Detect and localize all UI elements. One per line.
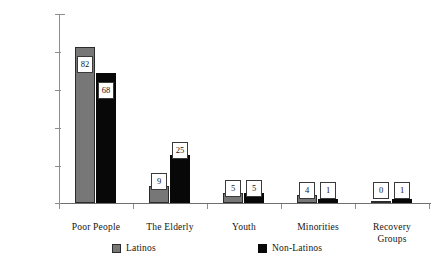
value-label: 82 xyxy=(77,56,93,73)
legend-label: Non-Latinos xyxy=(272,243,322,254)
bar-recovery-groups-nonlatinos xyxy=(392,199,412,203)
x-axis-category-label: The Elderly xyxy=(133,222,207,234)
y-axis-tick xyxy=(55,203,61,204)
legend-item-latinos: Latinos xyxy=(112,240,156,256)
bar-the-elderly-nonlatinos xyxy=(170,155,190,203)
value-label: 4 xyxy=(299,182,315,199)
y-axis-line xyxy=(59,14,60,204)
y-axis-tick xyxy=(55,52,61,53)
bar-minorities-nonlatinos xyxy=(318,199,338,203)
legend-swatch-icon xyxy=(258,244,267,253)
value-label: 1 xyxy=(320,182,336,199)
value-label: 0 xyxy=(373,182,389,199)
value-label: 5 xyxy=(246,180,262,197)
y-axis-tick xyxy=(55,128,61,129)
x-axis-category-label: Minorities xyxy=(281,222,355,234)
x-axis-tick xyxy=(59,204,60,209)
x-axis-category-label: Youth xyxy=(207,222,281,234)
bar-recovery-groups-latinos xyxy=(371,201,391,203)
x-axis-tick xyxy=(207,204,208,209)
y-axis-tick xyxy=(55,90,61,91)
value-label: 1 xyxy=(394,182,410,199)
chart-legend: Latinos Non-Latinos xyxy=(0,240,438,262)
x-axis-tick xyxy=(355,204,356,209)
x-axis-category-label: Poor People xyxy=(59,222,133,234)
value-label: 5 xyxy=(225,180,241,197)
legend-item-non-latinos: Non-Latinos xyxy=(258,240,322,256)
legend-label: Latinos xyxy=(126,243,156,254)
value-label: 9 xyxy=(151,173,167,190)
bar-chart: percentage responding 'yes' 82 68 9 25 xyxy=(0,0,438,268)
legend-swatch-icon xyxy=(112,244,121,253)
x-axis-tick xyxy=(429,204,430,209)
x-axis-tick xyxy=(281,204,282,209)
y-axis-tick xyxy=(55,14,61,15)
x-axis-line xyxy=(59,203,431,204)
y-axis-tick xyxy=(55,166,61,167)
plot-area: 82 68 9 25 5 5 4 1 0 1 Poor People The E… xyxy=(59,14,431,204)
x-axis-tick xyxy=(133,204,134,209)
value-label: 68 xyxy=(98,82,114,99)
value-label: 25 xyxy=(172,142,188,159)
